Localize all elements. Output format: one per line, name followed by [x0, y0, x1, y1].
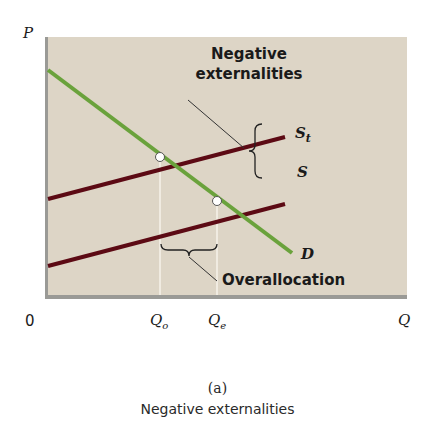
equilibrium-qe-point — [213, 197, 222, 206]
annotation-line-1: Negative — [169, 44, 329, 64]
y-axis-label: P — [23, 24, 33, 42]
s-curve-label: S — [297, 163, 308, 181]
overallocation-annotation: Overallocation — [222, 271, 345, 289]
qe-subscript: e — [220, 320, 226, 331]
st-main: S — [295, 124, 306, 142]
chart-caption: Negative externalities — [0, 401, 435, 417]
x-axis-label: Q — [398, 311, 410, 329]
negative-externalities-annotation: Negative externalities — [169, 44, 329, 84]
qo-tick-label: Qo — [150, 311, 168, 331]
qe-tick-label: Qe — [208, 311, 226, 331]
d-curve-label: D — [301, 245, 314, 263]
qo-subscript: o — [162, 320, 168, 331]
st-curve-label: St — [295, 124, 311, 145]
annotation-line-2: externalities — [169, 64, 329, 84]
panel-label: (a) — [0, 380, 435, 396]
st-subscript: t — [306, 132, 311, 145]
origin-label: 0 — [25, 312, 35, 330]
qo-main: Q — [150, 311, 162, 329]
qe-main: Q — [208, 311, 220, 329]
equilibrium-qo-point — [156, 153, 165, 162]
